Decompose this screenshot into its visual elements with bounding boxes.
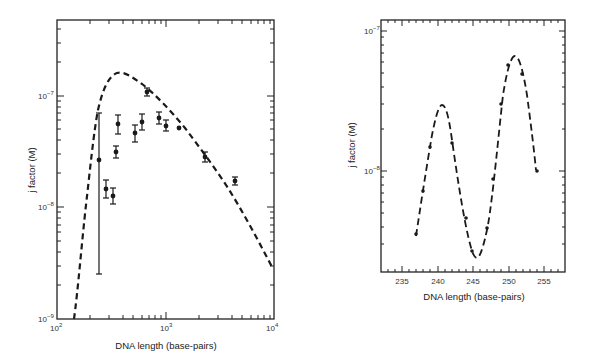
data-point — [104, 187, 109, 192]
figure-canvas: 102 103 104 10−9 10−8 10−7 DNA length (b… — [0, 0, 593, 361]
right-x-axis-label: DNA length (base-pairs) — [423, 291, 524, 302]
right-plot: 235 240 245 250 255 10−8 10−7 DNA length… — [346, 20, 565, 302]
data-point — [133, 131, 138, 136]
left-data-points — [96, 88, 238, 274]
data-point — [203, 155, 208, 160]
left-y-ticks — [57, 29, 274, 285]
data-point — [164, 124, 169, 129]
left-x-axis-label: DNA length (base-pairs) — [115, 340, 216, 351]
right-y-tick-label-1e-7: 10−7 — [364, 25, 380, 36]
right-y-ticks — [381, 31, 565, 244]
data-point — [491, 177, 495, 181]
data-point — [114, 150, 119, 155]
left-plot: 102 103 104 10−9 10−8 10−7 DNA length (b… — [26, 20, 279, 351]
right-data-points — [414, 63, 539, 253]
left-x-tick-label-1000: 103 — [160, 322, 173, 333]
data-point — [506, 63, 510, 67]
data-point — [116, 122, 121, 127]
data-point — [428, 145, 432, 149]
left-y-axis-label: j factor (M) — [26, 147, 37, 193]
data-point — [485, 226, 489, 230]
right-x-tick-label-235: 235 — [395, 277, 409, 286]
data-point — [111, 194, 116, 199]
data-point — [145, 90, 150, 95]
right-y-axis-label: j factor (M) — [346, 122, 357, 168]
right-y-tick-label-1e-8: 10−8 — [364, 165, 380, 176]
left-y-tick-label-1e-7: 10−7 — [38, 90, 54, 101]
data-point — [499, 102, 503, 106]
left-x-tick-label-10000: 104 — [266, 322, 279, 333]
left-y-tick-label-1e-8: 10−8 — [38, 201, 54, 212]
right-x-tick-label-255: 255 — [537, 277, 551, 286]
right-x-tick-label-240: 240 — [431, 277, 445, 286]
right-x-tick-label-245: 245 — [466, 277, 480, 286]
data-point — [520, 72, 524, 76]
data-point — [177, 126, 182, 131]
right-x-tick-label-250: 250 — [502, 277, 516, 286]
left-y-tick-label-1e-9: 10−9 — [38, 313, 54, 324]
data-point — [470, 249, 474, 253]
data-point — [414, 232, 418, 236]
data-point — [464, 216, 468, 220]
data-point — [157, 116, 162, 121]
data-point — [233, 179, 238, 184]
right-fit-curve — [416, 56, 536, 258]
data-point — [421, 189, 425, 193]
data-point — [535, 169, 539, 173]
data-point — [97, 158, 102, 163]
left-x-ticks — [90, 20, 270, 319]
right-plot-frame — [381, 20, 565, 272]
left-x-tick-label-100: 102 — [50, 322, 63, 333]
left-theory-curve — [74, 73, 272, 319]
data-point — [450, 141, 454, 145]
data-point — [140, 120, 145, 125]
